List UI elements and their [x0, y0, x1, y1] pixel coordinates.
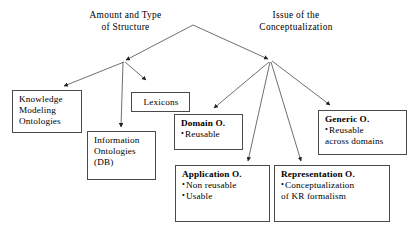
node-text-line: Ontologies: [94, 146, 150, 157]
edge-to-knowledge-modeling-ontologies: [64, 62, 124, 86]
edge-to-representation-ontology: [271, 62, 301, 161]
node-lexicons[interactable]: Lexicons: [131, 92, 190, 112]
node-bullet: Reusable: [181, 129, 237, 140]
node-title: Generic O.: [325, 114, 401, 125]
node-text-line: of KR formalism: [281, 191, 384, 202]
node-title: Application O.: [182, 169, 264, 180]
edge-to-information-ontologies-db: [121, 62, 123, 127]
edge-to-lexicons: [125, 62, 146, 80]
edge-to-generic-ontology: [272, 61, 330, 105]
node-title: Domain O.: [181, 118, 237, 129]
node-text-line: Lexicons: [138, 97, 184, 108]
node-bullet: Conceptualization: [281, 180, 384, 191]
edge-to-domain-ontology: [214, 62, 269, 108]
node-domain-ontology[interactable]: Domain O. Reusable: [174, 114, 243, 150]
node-text-line: Knowledge: [19, 94, 76, 105]
root-label-line-1: Amount and Type: [68, 9, 183, 21]
root-label-line-2: of Structure: [68, 21, 183, 33]
node-bullet: Non reusable: [182, 180, 264, 191]
node-title: Representation O.: [281, 169, 384, 180]
node-bullet: Usable: [182, 191, 264, 202]
node-knowledge-modeling-ontologies[interactable]: Knowledge Modeling Ontologies: [12, 90, 82, 133]
node-text-line: Ontologies: [19, 116, 76, 127]
node-representation-ontology[interactable]: Representation O. Conceptualization of K…: [274, 165, 390, 222]
node-bullet: Reusable: [325, 125, 401, 136]
root-label-amount-and-type-of-structure: Amount and Type of Structure: [68, 9, 183, 34]
root-label-line-1: Issue of the: [237, 9, 355, 21]
node-generic-ontology[interactable]: Generic O. Reusable across domains: [318, 110, 407, 155]
node-text-line: Modeling: [19, 105, 76, 116]
node-information-ontologies-db[interactable]: Information Ontologies (DB): [87, 131, 156, 180]
root-label-issue-of-the-conceptualization: Issue of the Conceptualization: [237, 9, 355, 34]
node-text-line: (DB): [94, 157, 150, 168]
root-label-line-2: Conceptualization: [237, 21, 355, 33]
node-text-line: across domains: [325, 136, 401, 147]
edge-to-application-ontology: [248, 62, 270, 161]
node-text-line: Information: [94, 135, 150, 146]
node-application-ontology[interactable]: Application O. Non reusable Usable: [175, 165, 270, 222]
ontology-diagram: Amount and Type of Structure Issue of th…: [0, 0, 418, 230]
